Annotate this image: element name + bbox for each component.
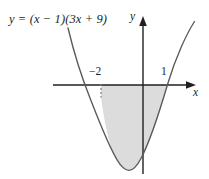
equation-label: y = (x − 1)(3x + 9) — [9, 13, 107, 26]
parabola-plot — [0, 0, 209, 179]
x-tick-label-one: 1 — [161, 66, 167, 78]
x-tick-label-negative-two: −2 — [89, 66, 101, 78]
y-axis-arrowhead — [139, 16, 147, 26]
x-axis-label: x — [193, 87, 198, 99]
graph-figure: y = (x − 1)(3x + 9) y x −2 1 — [0, 0, 209, 179]
y-axis-label: y — [130, 11, 135, 23]
shaded-region — [101, 85, 167, 170]
